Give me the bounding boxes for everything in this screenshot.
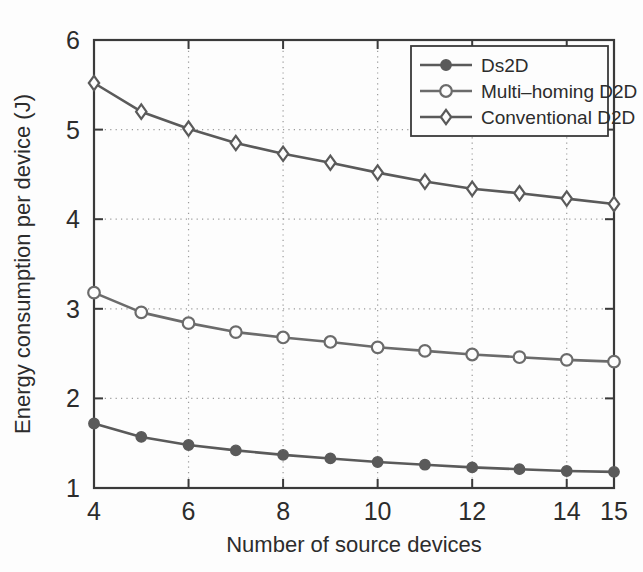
x-tick-label: 10 [364,497,392,525]
chart-legend: Ds2DMulti–homing D2DConventional D2D [411,46,637,136]
x-tick-label: 6 [182,497,196,525]
legend-item-label: Ds2D [481,55,529,76]
data-point-marker [325,336,337,348]
y-tick-label: 4 [66,205,80,233]
x-tick-label: 15 [600,497,628,525]
data-point-marker [88,287,100,299]
y-tick-label: 6 [66,26,80,54]
data-point-marker [325,453,335,463]
x-axis-title: Number of source devices [226,532,482,557]
legend-item-label: Multi–homing D2D [481,81,637,102]
data-point-marker [231,445,241,455]
data-point-marker [89,418,99,428]
data-point-marker [514,464,524,474]
data-point-marker [135,307,147,319]
data-point-marker [183,317,195,329]
data-point-marker [441,60,451,70]
data-point-marker [466,349,478,361]
data-point-marker [278,450,288,460]
chart-canvas: 12345646810121415 Number of source devic… [0,0,643,572]
data-point-marker [514,351,526,363]
x-tick-label: 8 [276,497,290,525]
data-point-marker [419,345,431,357]
data-point-marker [420,460,430,470]
y-axis-title: Energy consumption per device (J) [10,94,35,434]
data-point-marker [561,354,573,366]
x-tick-label: 4 [87,497,101,525]
data-point-marker [440,85,452,97]
data-point-marker [467,462,477,472]
x-tick-label: 12 [458,497,486,525]
data-point-marker [277,332,289,344]
y-tick-label: 2 [66,384,80,412]
data-point-marker [372,342,384,354]
data-point-marker [372,457,382,467]
data-point-marker [230,326,242,338]
y-tick-label: 5 [66,116,80,144]
data-point-marker [609,467,619,477]
legend-item-label: Conventional D2D [481,107,635,128]
y-tick-label: 1 [66,474,80,502]
chart-figure: 12345646810121415 Number of source devic… [0,0,643,572]
data-point-marker [608,356,620,368]
x-tick-label: 14 [553,497,581,525]
data-point-marker [183,440,193,450]
data-point-marker [562,466,572,476]
y-tick-label: 3 [66,295,80,323]
data-point-marker [136,432,146,442]
